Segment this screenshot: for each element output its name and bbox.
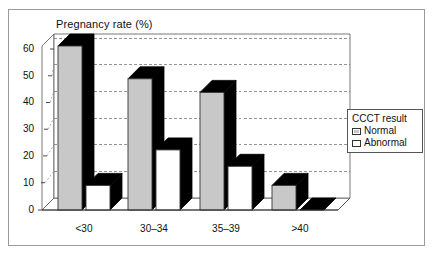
y-axis-tick-50: 50 [12, 71, 34, 81]
chart-legend: CCCT result Normal Abnormal [347, 109, 423, 153]
legend-item-abnormal: Abnormal [352, 137, 418, 149]
x-axis-tick-30-34: 30–34 [122, 224, 186, 234]
legend-swatch-normal-icon [352, 128, 361, 135]
y-axis-tick-0: 0 [12, 205, 34, 215]
y-axis-tick-10: 10 [12, 178, 34, 188]
legend-label-normal: Normal [364, 125, 396, 137]
legend-swatch-abnormal-icon [352, 140, 361, 147]
y-axis-tick-40: 40 [12, 97, 34, 107]
bar-abnormal-35-39 [228, 154, 264, 210]
y-axis-tick-60: 60 [12, 44, 34, 54]
x-axis-tick-lt30: <30 [52, 224, 116, 234]
legend-title: CCCT result [352, 113, 418, 125]
legend-item-normal: Normal [352, 125, 418, 137]
y-axis-tick-20: 20 [12, 151, 34, 161]
bar-abnormal-30-34 [156, 138, 192, 210]
figure-container: Pregnancy rate (%) [0, 0, 434, 256]
x-axis-tick-gt40: >40 [268, 224, 332, 234]
legend-label-abnormal: Abnormal [364, 137, 407, 149]
x-axis-tick-35-39: 35–39 [194, 224, 258, 234]
y-axis-tick-30: 30 [12, 124, 34, 134]
